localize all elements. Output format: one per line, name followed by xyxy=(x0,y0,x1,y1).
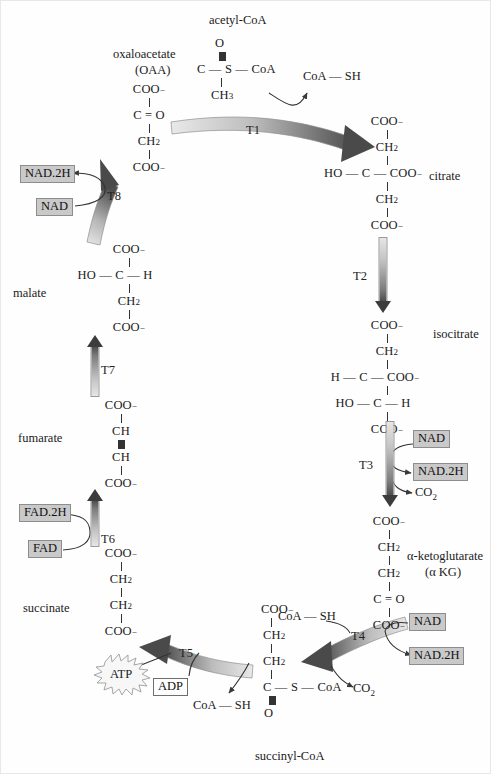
step-label-t6: T6 xyxy=(101,532,115,547)
chip-t8-nad: NAD xyxy=(36,198,73,216)
step-label-t4: T4 xyxy=(351,629,365,644)
label-t4-co2: CO2 xyxy=(353,681,375,696)
label-succinate: succinate xyxy=(23,601,70,616)
label-succinyl-coa: succinyl-CoA xyxy=(255,749,324,764)
structure-succinyl-coa: COO− CH2 CH2 C — S — CoA O xyxy=(251,601,351,722)
label-isocitrate: isocitrate xyxy=(433,327,479,342)
step-label-t5: T5 xyxy=(179,646,193,661)
chip-t6-fad: FAD xyxy=(28,540,62,558)
label-oxaloacetate-abbrev: (OAA) xyxy=(135,63,170,78)
label-acetyl-coa: acetyl-CoA xyxy=(209,13,267,28)
structure-acetyl-coa: O C — S — CoA CH3 xyxy=(197,35,317,104)
label-alpha-ketoglutarate-abbrev: (α KG) xyxy=(425,565,461,580)
step-label-t3: T3 xyxy=(359,458,373,473)
label-citrate: citrate xyxy=(429,169,460,184)
structure-oxaloacetate: COO− C = O CH2 COO− xyxy=(109,81,189,176)
structure-malate: COO− HO — C — H CH2 COO− xyxy=(81,241,177,336)
chip-t8-nadh: NAD.2H xyxy=(20,165,75,183)
label-malate: malate xyxy=(13,286,46,301)
arrow-t2 xyxy=(373,237,393,313)
arrow-t4-nadh-out xyxy=(385,631,411,655)
label-t1-coash-out: CoA — SH xyxy=(303,69,361,84)
label-alpha-ketoglutarate: α-ketoglutarate xyxy=(407,549,483,564)
structure-isocitrate: COO− CH2 H — C — COO− HO — C — H COO− xyxy=(339,317,435,438)
label-t5-coash-out: CoA — SH xyxy=(193,698,251,713)
structure-citrate: COO− CH2 HO — C — COO− CH2 COO− xyxy=(339,113,435,234)
step-label-t2: T2 xyxy=(353,269,367,284)
krebs-cycle-diagram: acetyl-CoA O C — S — CoA CH3 CoA — SH ox… xyxy=(0,0,491,774)
arrow-t5-coash-out xyxy=(229,663,249,693)
chip-t3-nadh: NAD.2H xyxy=(413,463,468,481)
arrow-t8-nadh-out xyxy=(73,173,105,187)
step-label-t8: T8 xyxy=(107,189,121,204)
arrow-t3 xyxy=(380,421,400,507)
label-oxaloacetate: oxaloacetate xyxy=(113,47,175,62)
chip-t4-nad: NAD xyxy=(409,613,446,631)
label-fumarate: fumarate xyxy=(18,431,62,446)
chip-t3-nad: NAD xyxy=(413,430,450,448)
label-t3-co2: CO2 xyxy=(415,485,437,500)
arrow-t8-nad-in xyxy=(75,187,105,206)
structure-fumarate: COO− CH CH COO− xyxy=(81,397,161,492)
step-label-t7: T7 xyxy=(101,363,115,378)
label-t5-atp: ATP xyxy=(83,656,159,692)
structure-succinate: COO− CH2 CH2 COO− xyxy=(81,545,161,640)
step-label-t1: T1 xyxy=(246,123,260,138)
chip-t6-fadh: FAD.2H xyxy=(19,504,71,522)
chip-t4-nadh: NAD.2H xyxy=(409,647,464,665)
